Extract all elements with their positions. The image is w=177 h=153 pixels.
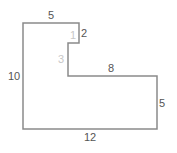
label-notch-right: 2 [81,27,87,39]
label-notch-top-inner: 1 [70,29,76,41]
label-middle: 8 [108,62,114,74]
label-top: 5 [48,9,54,21]
label-left: 10 [8,70,20,82]
l-shape-diagram: 5 2 1 3 8 10 5 12 [0,0,177,153]
l-shape-outline [23,23,157,129]
label-right: 5 [159,97,165,109]
label-bottom: 12 [84,131,96,143]
label-notch-left-inner: 3 [58,53,64,65]
